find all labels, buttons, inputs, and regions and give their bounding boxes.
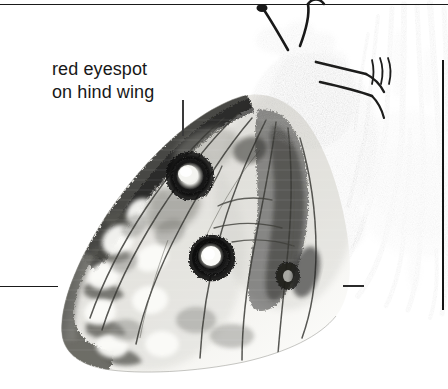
eyespot-callout-label: red eyespot on hind wing: [52, 58, 154, 104]
top-horizontal-rule: [0, 4, 448, 5]
right-vertical-rule: [442, 60, 444, 310]
callout-leader-line: [182, 100, 184, 136]
right-leader-dash: [343, 285, 364, 287]
left-leader-rule: [0, 286, 58, 287]
figure-canvas: red eyespot on hind wing: [0, 0, 448, 389]
